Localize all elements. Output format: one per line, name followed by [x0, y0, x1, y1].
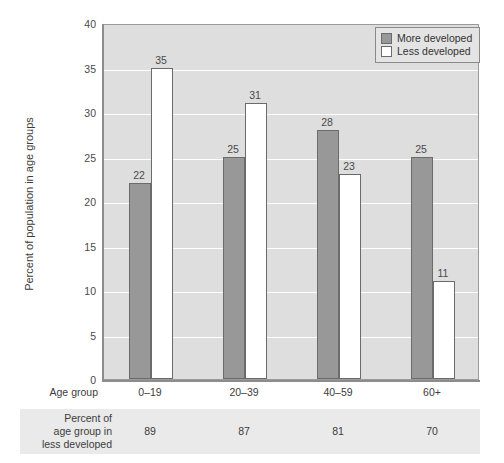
category-label-3: 60+: [385, 386, 479, 398]
bar-less-developed-3: [433, 281, 455, 379]
category-label-2: 40–59: [291, 386, 385, 398]
bar-less-developed-0: [151, 68, 173, 380]
table-row-label: Percent ofage group inless developed: [20, 412, 112, 451]
legend-swatch-icon-less: [381, 46, 392, 57]
chart-legend: More developed Less developed: [375, 27, 480, 63]
bar-value-label-more-2: 28: [307, 117, 347, 128]
y-tick-label-0: 0: [68, 375, 96, 385]
table-row-label-line-1: age group in: [20, 425, 112, 438]
y-axis-title: Percent of population in age groups: [23, 54, 35, 354]
y-tick-label-10: 10: [68, 286, 96, 296]
table-cell-2: 81: [291, 425, 385, 437]
bar-value-label-more-3: 25: [401, 144, 441, 155]
legend-item-less-developed: Less developed: [381, 45, 474, 58]
table-row-label-line-0: Percent of: [20, 412, 112, 425]
y-axis-line: [102, 24, 104, 381]
bar-value-label-more-0: 22: [119, 170, 159, 181]
table-cell-1: 87: [197, 425, 291, 437]
bar-more-developed-1: [223, 157, 245, 380]
table-cell-0: 89: [103, 425, 197, 437]
category-label-1: 20–39: [197, 386, 291, 398]
legend-label-more: More developed: [397, 32, 472, 45]
chart-plot-area: [103, 24, 479, 380]
bar-value-label-less-2: 23: [329, 161, 369, 172]
x-axis-line: [102, 380, 480, 382]
y-tick-label-40: 40: [68, 19, 96, 29]
y-tick-label-20: 20: [68, 197, 96, 207]
table-row-label-line-2: less developed: [20, 438, 112, 451]
bar-more-developed-0: [129, 183, 151, 379]
bar-value-label-less-1: 31: [235, 90, 275, 101]
y-tick-label-15: 15: [68, 242, 96, 252]
legend-label-less: Less developed: [397, 45, 471, 58]
bar-value-label-more-1: 25: [213, 144, 253, 155]
y-tick-label-35: 35: [68, 64, 96, 74]
y-tick-label-5: 5: [68, 331, 96, 341]
bar-value-label-less-3: 11: [423, 268, 463, 279]
bar-less-developed-2: [339, 174, 361, 379]
x-axis-title: Age group: [6, 386, 98, 398]
legend-item-more-developed: More developed: [381, 32, 474, 45]
legend-swatch-icon-more: [381, 33, 392, 44]
bar-value-label-less-0: 35: [141, 55, 181, 66]
y-tick-label-30: 30: [68, 108, 96, 118]
category-label-0: 0–19: [103, 386, 197, 398]
table-cell-3: 70: [385, 425, 479, 437]
percent-in-less-developed-table: Percent ofage group inless developed 898…: [20, 409, 480, 454]
y-tick-label-25: 25: [68, 153, 96, 163]
